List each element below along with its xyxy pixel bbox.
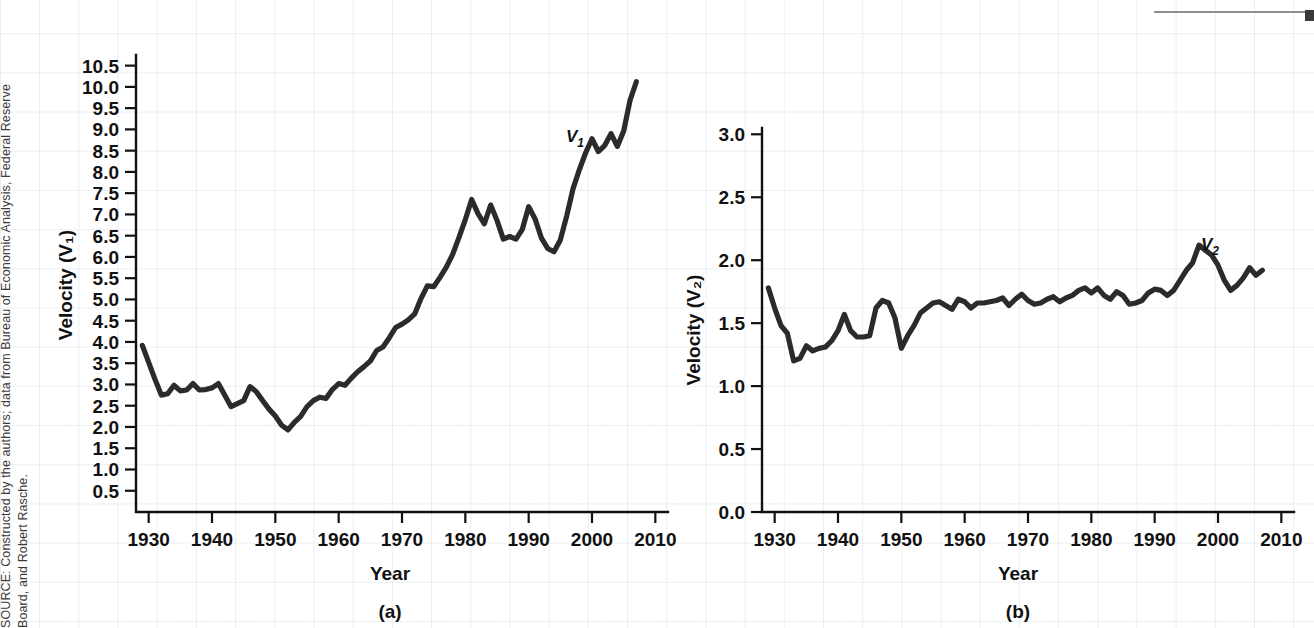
y-tick-label: 7.0 xyxy=(93,204,119,225)
x-tick-label: 1930 xyxy=(128,529,170,550)
y-tick-label: 1.0 xyxy=(719,376,745,397)
x-axis-title: Year xyxy=(370,563,411,584)
x-tick-label: 1940 xyxy=(817,529,859,550)
y-axis-title: Velocity (V₁) xyxy=(55,230,76,340)
chart-panel-a: 0.51.01.52.02.53.03.54.04.55.05.56.06.57… xyxy=(55,55,676,622)
x-tick-label: 1980 xyxy=(1070,529,1112,550)
y-tick-label: 2.5 xyxy=(93,396,120,417)
x-tick-label: 1990 xyxy=(1134,529,1176,550)
y-tick-label: 0.5 xyxy=(719,439,746,460)
y-tick-label: 8.5 xyxy=(93,141,120,162)
x-tick-label: 1990 xyxy=(508,529,550,550)
y-tick-label: 0.5 xyxy=(93,481,120,502)
y-tick-label: 9.0 xyxy=(93,119,119,140)
scan-artifact xyxy=(1154,10,1314,15)
series-label: V1 xyxy=(566,127,584,150)
y-tick-label: 8.0 xyxy=(93,162,119,183)
y-tick-label: 5.0 xyxy=(93,289,119,310)
series-label-subscript: 1 xyxy=(577,136,584,150)
y-tick-label: 9.5 xyxy=(93,98,120,119)
y-tick-label: 10.5 xyxy=(82,56,119,77)
y-tick-label: 4.5 xyxy=(93,311,120,332)
x-tick-label: 1950 xyxy=(880,529,922,550)
x-tick-label: 1940 xyxy=(191,529,233,550)
panel-label: (a) xyxy=(378,601,401,622)
y-tick-label: 3.0 xyxy=(719,124,745,145)
y-tick-label: 6.5 xyxy=(93,226,120,247)
y-tick-label: 2.0 xyxy=(719,250,745,271)
data-series-line xyxy=(768,245,1262,361)
chart-panel-b: 0.00.51.01.52.02.53.01930194019501960197… xyxy=(683,124,1302,622)
y-tick-label: 4.0 xyxy=(93,332,119,353)
y-tick-label: 3.5 xyxy=(93,353,120,374)
velocity-figure: 0.51.01.52.02.53.03.54.04.55.05.56.06.57… xyxy=(0,0,1314,628)
x-tick-label: 1950 xyxy=(254,529,296,550)
y-tick-label: 1.5 xyxy=(93,438,120,459)
series-label-subscript: 2 xyxy=(1211,244,1219,258)
x-tick-label: 1960 xyxy=(944,529,986,550)
y-tick-label: 1.0 xyxy=(93,459,119,480)
y-axis-title: Velocity (V₂) xyxy=(683,275,704,386)
y-tick-label: 2.0 xyxy=(93,417,119,438)
x-tick-label: 1930 xyxy=(754,529,796,550)
y-tick-label: 3.0 xyxy=(93,374,119,395)
x-tick-label: 1980 xyxy=(444,529,486,550)
x-tick-label: 1970 xyxy=(1007,529,1049,550)
data-series-line xyxy=(142,82,636,430)
axis-lines xyxy=(136,55,668,512)
scan-artifact-rule xyxy=(1154,11,1306,13)
panel-label: (b) xyxy=(1006,601,1030,622)
y-tick-label: 2.5 xyxy=(719,187,746,208)
y-tick-label: 10.0 xyxy=(82,77,119,98)
x-tick-label: 2010 xyxy=(634,529,676,550)
y-tick-label: 0.0 xyxy=(719,502,745,523)
y-tick-label: 6.0 xyxy=(93,247,119,268)
y-tick-label: 5.5 xyxy=(93,268,120,289)
x-tick-label: 1970 xyxy=(381,529,423,550)
x-tick-label: 2010 xyxy=(1260,529,1302,550)
y-tick-label: 7.5 xyxy=(93,183,120,204)
x-tick-label: 2000 xyxy=(571,529,613,550)
x-axis-title: Year xyxy=(998,563,1039,584)
y-tick-label: 1.5 xyxy=(719,313,746,334)
x-tick-label: 1960 xyxy=(318,529,360,550)
scan-artifact-cap xyxy=(1305,10,1314,21)
x-tick-label: 2000 xyxy=(1197,529,1239,550)
